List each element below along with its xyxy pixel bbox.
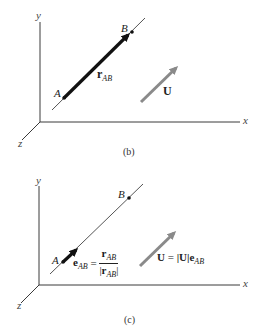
point-a-label: A	[54, 88, 61, 99]
point-a	[62, 96, 66, 100]
point-b	[127, 196, 131, 200]
equals-sign: =	[90, 257, 96, 269]
r-ab-label: rAB	[97, 68, 112, 83]
denominator: |rAB|	[99, 264, 118, 279]
point-b-label: B	[118, 189, 125, 200]
vector-figure	[0, 0, 260, 334]
unit-vector-equation: eAB = rAB |rAB|	[73, 248, 118, 279]
point-b	[130, 30, 134, 34]
u-label: U	[163, 85, 172, 97]
panel-b	[22, 18, 240, 140]
point-a-label: A	[52, 255, 59, 266]
e-subscript: AB	[78, 262, 88, 271]
caption-c: (c)	[124, 315, 135, 325]
z-axis	[22, 122, 40, 140]
x-axis-label: x	[243, 278, 248, 289]
z-axis-label: z	[18, 138, 22, 149]
point-a	[61, 260, 65, 264]
numerator: rAB	[99, 248, 118, 264]
position-vector-r-ab	[64, 35, 128, 98]
fraction: rAB |rAB|	[99, 248, 118, 279]
y-axis-label: y	[36, 175, 41, 186]
y-axis-label: y	[36, 10, 41, 21]
u-equation: U = |U|eAB	[157, 252, 204, 266]
z-axis-label: z	[17, 300, 21, 311]
panel-c	[21, 184, 240, 303]
r-subscript: AB	[102, 74, 112, 83]
caption-b: (b)	[123, 147, 135, 157]
x-axis-label: x	[243, 115, 248, 126]
z-axis	[21, 285, 39, 303]
point-b-label: B	[121, 23, 128, 34]
